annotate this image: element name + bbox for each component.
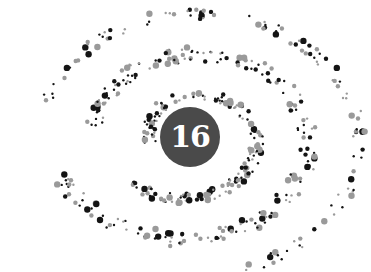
dot (218, 226, 222, 230)
dot (148, 21, 150, 23)
plate-number: 16 (170, 122, 210, 152)
dot (248, 159, 250, 161)
dot (160, 112, 162, 114)
dot (113, 89, 115, 91)
dot (220, 235, 222, 237)
dot (247, 157, 249, 159)
dot (154, 101, 158, 105)
dot (316, 61, 318, 63)
dot (116, 82, 120, 86)
dot (178, 99, 180, 101)
dot (178, 242, 180, 244)
dot (248, 173, 250, 175)
dot (202, 52, 204, 54)
dot (239, 114, 241, 116)
dot (261, 73, 263, 75)
dot (260, 210, 266, 216)
dot (153, 62, 159, 68)
dot (72, 184, 74, 186)
dot (187, 193, 191, 197)
dot (235, 231, 237, 233)
dot (157, 58, 161, 62)
dot (96, 108, 100, 112)
dot (137, 232, 139, 234)
dot (154, 237, 156, 239)
dot (149, 125, 153, 129)
dot (220, 184, 224, 188)
dot (192, 96, 194, 98)
dot (186, 197, 192, 203)
dot (258, 147, 260, 149)
dot (61, 171, 67, 177)
dot (86, 40, 90, 44)
dot (90, 124, 92, 126)
dot (155, 120, 157, 122)
dot (298, 148, 302, 152)
dot (248, 147, 254, 153)
dot (298, 236, 302, 240)
dot (97, 217, 103, 223)
dot (181, 49, 183, 51)
dot (140, 192, 144, 196)
dot (82, 192, 84, 194)
dot (96, 101, 98, 103)
dot (145, 191, 149, 195)
dot (301, 246, 303, 248)
dot (248, 121, 254, 127)
dot (145, 131, 149, 135)
dot (243, 58, 247, 62)
dot (274, 193, 278, 197)
dot (122, 79, 124, 81)
dot (270, 212, 272, 214)
dot (51, 93, 53, 95)
dot (246, 118, 248, 120)
dot (348, 176, 354, 182)
dot (155, 111, 159, 115)
dot (308, 135, 312, 139)
dot (250, 68, 252, 70)
dot (299, 99, 303, 103)
dot (122, 32, 124, 34)
dot (270, 252, 272, 254)
dot (313, 125, 317, 129)
dot (108, 223, 112, 227)
dot (353, 155, 355, 157)
dot (249, 217, 253, 221)
dot (220, 58, 222, 60)
dot (160, 102, 162, 104)
dot (176, 199, 182, 205)
dot (165, 109, 167, 111)
dot (225, 190, 227, 192)
dot (259, 215, 265, 221)
dot (125, 83, 127, 85)
dot (85, 120, 89, 124)
dot (54, 181, 60, 187)
dot (173, 100, 177, 104)
dot (300, 38, 306, 44)
dot (301, 118, 305, 122)
dot (351, 169, 355, 173)
dot (221, 96, 223, 98)
dot (114, 84, 116, 86)
dot (154, 115, 156, 117)
dot (186, 10, 188, 12)
dot (217, 237, 219, 239)
dot (313, 57, 315, 59)
dot (263, 266, 265, 268)
dot (166, 194, 172, 200)
dot (181, 234, 183, 236)
dot (218, 99, 220, 101)
dot (285, 194, 287, 196)
dot (277, 78, 281, 82)
dot (95, 118, 97, 120)
dot (293, 103, 297, 107)
dot (203, 95, 205, 97)
dot (360, 110, 362, 112)
dot (169, 240, 171, 242)
dot (102, 117, 104, 119)
dot (194, 233, 198, 237)
dot (290, 194, 292, 196)
dot (229, 229, 233, 233)
dot (166, 61, 168, 63)
dot (162, 198, 166, 202)
